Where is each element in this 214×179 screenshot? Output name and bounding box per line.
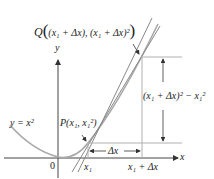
q-point-label: Q((x₁ + Δx), (x₁ + Δx)²) [34, 22, 135, 39]
x-axis-label: x [180, 152, 184, 162]
p-point-label: P(x₁, x₁²) [60, 118, 97, 128]
q-pointer-arrow [133, 44, 139, 54]
p-pointer-arrow [82, 135, 86, 141]
origin-label: 0 [50, 161, 55, 171]
delta-y-label: (x₁ + Δx)² − x₁² [143, 91, 205, 101]
curve-equation-label: y = x² [10, 118, 34, 128]
delta-x-label: Δx [108, 146, 118, 156]
x1-label: x₁ [84, 162, 92, 172]
y-axis-label: y [55, 43, 59, 53]
x1-plus-dx-label: x₁ + Δx [128, 162, 158, 172]
